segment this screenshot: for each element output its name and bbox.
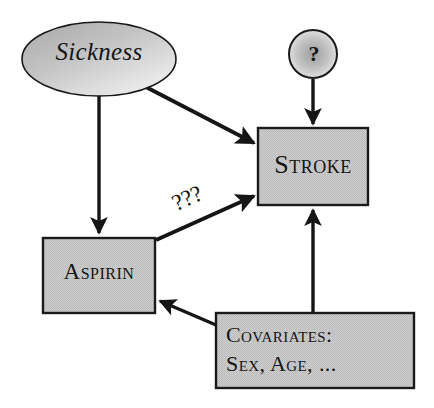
diagram-canvas xyxy=(0,0,434,408)
edge-aspirin-to-stroke xyxy=(156,196,254,240)
node-sickness[interactable] xyxy=(22,22,176,96)
node-aspirin[interactable] xyxy=(43,238,155,313)
edge-sickness-to-stroke xyxy=(144,86,254,143)
node-stroke[interactable] xyxy=(258,128,368,205)
node-unknown-cause[interactable] xyxy=(289,30,337,78)
nodes-layer xyxy=(22,22,414,388)
node-covariates[interactable] xyxy=(216,313,414,388)
causal-diagram: Sickness ? Stroke Aspirin Covariates: Se… xyxy=(0,0,434,408)
edge-covariates-to-aspirin xyxy=(160,301,216,325)
